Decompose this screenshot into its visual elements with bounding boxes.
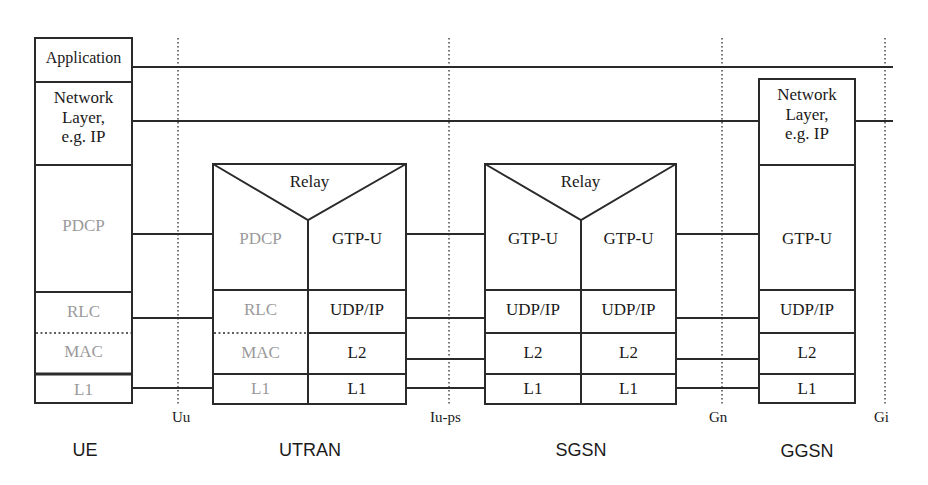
utran-l2-layer: L2 xyxy=(308,343,406,363)
ggsn-network-line-3: e.g. IP xyxy=(759,124,855,144)
sgsn-gtpu-right-layer: GTP-U xyxy=(581,229,676,249)
ggsn-l1-layer: L1 xyxy=(759,379,855,399)
ggsn-network-line-1: Network xyxy=(759,85,855,105)
ue-network-line-2: Layer, xyxy=(35,108,132,128)
interface-uu-label: Uu xyxy=(172,409,190,426)
sgsn-relay: Relay xyxy=(485,172,676,192)
sgsn-stack-box xyxy=(485,164,676,404)
ggsn-udpip-layer: UDP/IP xyxy=(759,300,855,320)
sgsn-udpip-left-layer: UDP/IP xyxy=(485,300,581,320)
interface-iups-label: Iu-ps xyxy=(430,409,461,426)
ggsn-network-line-2: Layer, xyxy=(759,105,855,125)
ue-rlc-layer: RLC xyxy=(35,302,132,322)
ue-network-line-3: e.g. IP xyxy=(35,127,132,147)
ue-network-line-1: Network xyxy=(35,88,132,108)
ue-l1-layer: L1 xyxy=(35,380,132,400)
sgsn-l2-left-layer: L2 xyxy=(485,343,581,363)
ue-network-layer: Network Layer, e.g. IP xyxy=(35,88,132,147)
ue-pdcp-layer: PDCP xyxy=(35,216,132,236)
utran-l1-right-layer: L1 xyxy=(308,379,406,399)
ue-mac-layer: MAC xyxy=(35,342,132,362)
sgsn-l1-right-layer: L1 xyxy=(581,379,676,399)
protocol-stack-diagram: Application Network Layer, e.g. IP PDCP … xyxy=(0,0,928,485)
interface-gn-label: Gn xyxy=(709,409,727,426)
node-utran-label: UTRAN xyxy=(250,440,370,461)
utran-pdcp-layer: PDCP xyxy=(213,229,308,249)
utran-stack-box xyxy=(213,164,406,404)
sgsn-gtpu-left-layer: GTP-U xyxy=(485,229,581,249)
node-ggsn-label: GGSN xyxy=(747,441,867,462)
sgsn-l2-right-layer: L2 xyxy=(581,343,676,363)
ggsn-gtpu-layer: GTP-U xyxy=(759,229,855,249)
ggsn-l2-layer: L2 xyxy=(759,343,855,363)
utran-relay: Relay xyxy=(213,172,406,192)
node-sgsn-label: SGSN xyxy=(521,440,641,461)
ggsn-network-layer: Network Layer, e.g. IP xyxy=(759,85,855,144)
utran-gtpu-layer: GTP-U xyxy=(308,229,406,249)
utran-udpip-layer: UDP/IP xyxy=(308,300,406,320)
interface-gi-label: Gi xyxy=(874,409,889,426)
utran-l1-left-layer: L1 xyxy=(213,379,308,399)
utran-rlc-layer: RLC xyxy=(213,300,308,320)
sgsn-udpip-right-layer: UDP/IP xyxy=(581,300,676,320)
node-ue-label: UE xyxy=(25,440,145,461)
sgsn-l1-left-layer: L1 xyxy=(485,379,581,399)
ue-application-layer: Application xyxy=(35,49,132,67)
utran-mac-layer: MAC xyxy=(213,343,308,363)
